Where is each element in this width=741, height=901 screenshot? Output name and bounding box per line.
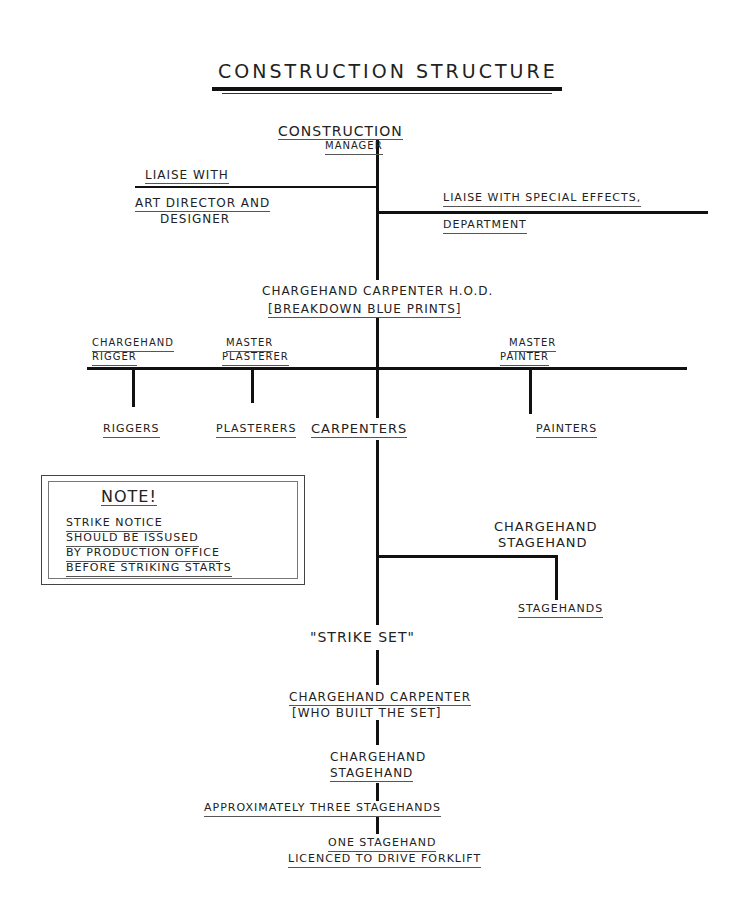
trades-bar	[87, 367, 687, 370]
node-construction-manager-2: Manager	[325, 139, 383, 155]
node-riggers: Riggers	[103, 422, 160, 438]
node-forklift-1: One stagehand	[328, 836, 436, 852]
node-chargehand-stagehand-2a: Chargehand	[330, 750, 426, 764]
title-underline-2	[222, 93, 552, 94]
node-plasterers: Plasterers	[216, 422, 296, 438]
spine-strike-2	[376, 720, 379, 745]
spine-strike-3	[376, 783, 379, 801]
stagehand-drop	[555, 555, 558, 600]
node-chargehand-carpenter-built-2: [Who built the set]	[292, 706, 442, 720]
note-line-1: Strike notice	[66, 516, 163, 532]
art-branch-line	[135, 186, 378, 188]
sfx-branch-line	[376, 211, 708, 214]
main-spine-top	[376, 140, 379, 280]
note-line-2: should be issused	[66, 531, 199, 547]
spine-strike-4	[376, 816, 379, 834]
node-liaise-sfx-1: Liaise with Special Effects,	[443, 191, 641, 207]
rigger-drop	[132, 369, 135, 407]
node-chargehand-carpenter-hod-2: [Breakdown Blue Prints]	[268, 302, 461, 318]
node-carpenters: Carpenters	[311, 422, 407, 438]
diagram-title: Construction Structure	[218, 60, 558, 82]
node-painters: Painters	[536, 422, 597, 438]
node-chargehand-stagehand-2b: Stagehand	[330, 766, 413, 782]
node-chargehand-rigger-2: Rigger	[92, 350, 137, 366]
node-chargehand-stagehand-1b: Stagehand	[498, 536, 588, 550]
node-stagehands: Stagehands	[518, 602, 603, 618]
painter-drop	[529, 369, 532, 414]
plasterer-drop	[251, 369, 254, 403]
node-three-stagehands: Approximately three stagehands	[204, 801, 441, 817]
node-chargehand-carpenter-hod-1: Chargehand Carpenter H.O.D.	[262, 284, 493, 298]
node-liaise-sfx-2: Department	[443, 218, 527, 234]
stagehand-branch-line	[376, 555, 558, 558]
node-master-painter-2: Painter	[500, 350, 549, 366]
node-liaise-art-1: Liaise with	[145, 168, 229, 184]
spine-strike-1	[376, 650, 379, 685]
title-underline	[212, 87, 562, 91]
node-forklift-2: Licenced to drive forklift	[288, 852, 481, 868]
note-line-4: before striking starts	[66, 561, 232, 577]
node-strike-set: "Strike Set"	[310, 630, 415, 644]
node-chargehand-stagehand-1a: Chargehand	[494, 520, 597, 534]
node-chargehand-carpenter-built-1: Chargehand Carpenter	[289, 690, 471, 706]
node-construction-manager-1: Construction	[278, 124, 403, 140]
node-liaise-art-3: Designer	[160, 212, 230, 226]
note-line-3: by production office	[66, 546, 220, 562]
main-spine-lower	[376, 440, 379, 625]
node-liaise-art-2: Art Director and	[135, 196, 270, 212]
note-heading: Note!	[101, 490, 157, 506]
node-master-plasterer-2: Plasterer	[222, 350, 289, 366]
